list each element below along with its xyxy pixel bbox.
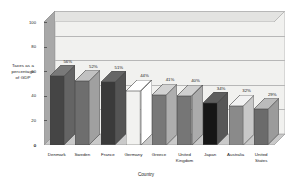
x-axis-title: Country <box>0 172 292 177</box>
bar-value-label-8: 29% <box>262 92 282 97</box>
bar-front-2 <box>101 82 115 145</box>
bar-side-0 <box>64 65 75 145</box>
bar-top-0 <box>50 65 75 76</box>
bar-front-1 <box>75 81 89 145</box>
bar-side-1 <box>89 70 100 145</box>
gridline-80 <box>55 36 285 37</box>
y-tick-60 <box>44 71 47 72</box>
bar-front-4 <box>152 95 166 145</box>
y-axis-title-line-3: of GDP <box>2 75 44 81</box>
x-tick-label-8-line-1: States <box>246 158 276 164</box>
bar-side-2 <box>115 71 126 145</box>
bar-top-3 <box>126 80 151 91</box>
bar-value-label-7: 32% <box>237 88 257 93</box>
bar-top-4 <box>152 84 177 95</box>
bar-front-8 <box>254 109 268 145</box>
bar-front-7 <box>229 106 243 145</box>
y-tick-80 <box>44 47 47 48</box>
bar-value-label-3: 44% <box>134 73 154 78</box>
plot-top-cap <box>44 11 285 22</box>
y-tick-label-80: 80 <box>22 44 36 49</box>
bar-value-label-4: 41% <box>160 77 180 82</box>
y-tick-label-60: 60 <box>22 69 36 74</box>
bar-front-5 <box>177 96 191 145</box>
bar-front-6 <box>203 103 217 145</box>
bar-top-8 <box>254 98 279 109</box>
y-tick-label-20: 20 <box>22 118 36 123</box>
y-tick-20 <box>44 120 47 121</box>
x-tick-label-8: UnitedStates <box>246 152 276 163</box>
bar-value-label-6: 34% <box>211 86 231 91</box>
y-tick-label-40: 40 <box>22 93 36 98</box>
gridline-100 <box>55 11 285 12</box>
y-tick-label-0: 0 <box>22 143 36 148</box>
bar-front-3 <box>126 91 140 145</box>
bar-top-2 <box>101 71 126 82</box>
bar-chart: Taxes as a percentage of GDP 02040608010… <box>0 0 292 188</box>
x-tick-label-5-line-1: Kingdom <box>170 158 200 164</box>
bar-front-0 <box>50 76 64 145</box>
bar-top-6 <box>203 92 228 103</box>
bar-value-label-0: 56% <box>58 59 78 64</box>
gridline-60 <box>55 60 285 61</box>
y-tick-40 <box>44 96 47 97</box>
bar-value-label-1: 52% <box>83 64 103 69</box>
bar-top-5 <box>177 85 202 96</box>
bar-value-label-5: 40% <box>185 78 205 83</box>
y-tick-label-100: 100 <box>22 20 36 25</box>
bar-top-1 <box>75 70 100 81</box>
bar-top-7 <box>229 95 254 106</box>
y-tick-100 <box>44 22 47 23</box>
bar-value-label-2: 51% <box>109 65 129 70</box>
